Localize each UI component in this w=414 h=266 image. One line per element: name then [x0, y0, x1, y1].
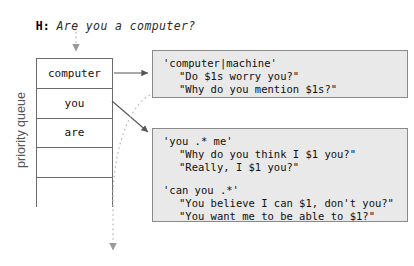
queue-cell: computer	[37, 59, 112, 89]
queue-cell: are	[37, 119, 112, 149]
rule-box: 'computer|machine' "Do $1s worry you?" "…	[152, 50, 408, 98]
you-to-rulebox-arrow	[112, 101, 148, 132]
rule-response: "Why do you mention $1s?"	[163, 83, 399, 96]
rule-box: 'you .* me' "Why do you think I $1 you?"…	[152, 128, 408, 222]
priority-queue-label: priority queue	[14, 80, 28, 180]
eliza-priority-queue-diagram: H: Are you a computer? priority queue co…	[0, 0, 414, 266]
queue-cell: you	[37, 89, 112, 119]
rule-response: "Really, I $1 you?"	[163, 161, 399, 174]
dialogue-line: H: Are you a computer?	[8, 5, 196, 47]
priority-queue-table: computer you are	[36, 58, 113, 207]
rule-pattern: 'you .* me'	[163, 135, 399, 148]
rule-group: 'can you .*' "You believe I can $1, don'…	[163, 184, 399, 223]
rule-pattern: 'can you .*'	[163, 184, 399, 197]
rule-response: "Why do you think I $1 you?"	[163, 148, 399, 161]
queue-cell	[37, 148, 112, 178]
rule-response: "You believe I can $1, don't you?"	[163, 197, 399, 210]
rule-group: 'computer|machine' "Do $1s worry you?" "…	[163, 57, 399, 96]
output-dotted-arrow	[113, 95, 150, 250]
dialogue-utterance-text: Are you a computer?	[57, 19, 196, 33]
rule-response: "You want me to be able to $1?"	[163, 210, 399, 223]
dialogue-speaker-label: H:	[36, 19, 50, 33]
rule-group: 'you .* me' "Why do you think I $1 you?"…	[163, 135, 399, 174]
rule-response: "Do $1s worry you?"	[163, 70, 399, 83]
rule-pattern: 'computer|machine'	[163, 57, 399, 70]
queue-cell	[37, 178, 112, 208]
